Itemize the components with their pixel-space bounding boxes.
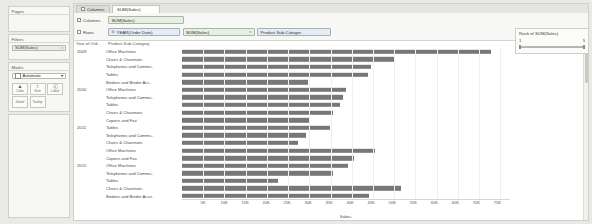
rows-pill-year-order-date[interactable]: ⊞ YEAR(Order Date) (108, 28, 180, 36)
row-subcategory-label: Tables (106, 72, 182, 77)
bar[interactable] (182, 171, 333, 175)
bar-cell (182, 170, 510, 178)
rank-filter-title: Rank of SUM(Sales) (519, 31, 585, 36)
tab-sum-sales[interactable]: SUM(Sales) (112, 5, 160, 13)
viz-canvas: Year of Ord.. Product Sub-Category 2009O… (74, 41, 588, 220)
bar-cell (182, 147, 510, 155)
tooltip-shelf[interactable]: Tooltip (30, 96, 46, 108)
row-subcategory-label: Binders and Binder Acc.. (106, 80, 182, 85)
rows-shelf-label: Rows (83, 30, 94, 35)
rows-shelf[interactable]: Rows ⊞ YEAR(Order Date) SUM(Sales) ▾ Pro… (74, 27, 588, 38)
table-row[interactable]: Binders and Binder Acc.. (76, 78, 510, 86)
color-shelf[interactable]: ▲ Color (12, 83, 28, 95)
row-subcategory-label: Binders and Binder Acce.. (106, 194, 182, 199)
label-shelf[interactable]: Ⓛ Label (47, 83, 63, 95)
table-row[interactable]: Chairs & Chairmats (76, 185, 510, 193)
bar[interactable] (182, 50, 491, 54)
table-row[interactable]: Chairs & Chairmats (76, 109, 510, 117)
columns-pill-sum-sales[interactable]: SUM(Sales) (108, 16, 184, 24)
row-year-label: 2012 (76, 163, 106, 168)
bar-cell (182, 101, 510, 109)
table-row[interactable]: Copiers and Fax (76, 154, 510, 162)
row-subcategory-label: Office Machines (106, 49, 182, 54)
table-row[interactable]: 2012Office Machines (76, 162, 510, 170)
gridline (394, 48, 395, 200)
x-tick-label: 65K (452, 200, 459, 205)
bar-mark-icon (15, 73, 21, 79)
filter-pill-sum-sales[interactable]: SUM(Sales) ▾ (12, 45, 66, 52)
gridline (479, 48, 480, 200)
bar[interactable] (182, 179, 278, 183)
table-row[interactable]: 2010Office Machines (76, 86, 510, 94)
bar[interactable] (182, 156, 354, 160)
gridline (500, 48, 501, 200)
row-subcategory-label: Telephones and Commu.. (106, 171, 182, 176)
x-tick-label: 25K (283, 200, 290, 205)
table-row[interactable]: 2009Office Machines (76, 48, 510, 56)
x-tick-label: 75K (494, 200, 501, 205)
bar[interactable] (182, 141, 298, 145)
gridline (352, 48, 353, 200)
chevron-down-icon[interactable]: ▾ (249, 30, 251, 34)
table-row[interactable]: Chairs & Chairmats (76, 56, 510, 64)
slider-knob-min[interactable] (519, 45, 521, 50)
expand-icon[interactable]: ⊞ (112, 30, 115, 34)
marks-card: Marks Automatic ▾ ▲ Color ↕ Size (8, 62, 70, 112)
bar[interactable] (182, 133, 306, 137)
row-subcategory-label: Tables (106, 125, 182, 130)
bar[interactable] (182, 148, 375, 152)
bar[interactable] (182, 126, 330, 130)
table-row[interactable]: Telephones and Commu.. (76, 94, 510, 102)
shelf-bar: Columns SUM(Sales) Rows ⊞ YEAR(Order Dat… (74, 13, 588, 41)
x-tick-label: 20K (262, 200, 269, 205)
table-row[interactable]: Tables (76, 101, 510, 109)
row-year-label: 2010 (76, 87, 106, 92)
row-subcategory-label: Chairs & Chairmats (106, 110, 182, 115)
size-shelf[interactable]: ↕ Size (30, 83, 46, 95)
table-row[interactable]: Telephones and Commu.. (76, 63, 510, 71)
row-subcategory-label: Chairs & Chairmats (106, 140, 182, 145)
bar[interactable] (182, 194, 369, 198)
gridline (437, 48, 438, 200)
table-row[interactable]: Chairs & Chairmats (76, 139, 510, 147)
bar-cell (182, 154, 510, 162)
chevron-down-icon[interactable]: ▾ (61, 46, 63, 50)
row-subcategory-label: Tables (106, 178, 182, 183)
table-row[interactable]: Tables (76, 71, 510, 79)
row-subcategory-label: Telephones and Commu.. (106, 133, 182, 138)
table-row[interactable]: Telephones and Commu.. (76, 132, 510, 140)
x-axis-title-text: Sales (340, 214, 350, 219)
tab-columns[interactable]: Columns (76, 5, 110, 13)
detail-shelf[interactable]: Detail (12, 96, 28, 108)
bar[interactable] (182, 95, 343, 99)
bar[interactable] (182, 88, 346, 92)
rows-pill-sum-sales[interactable]: SUM(Sales) ▾ (183, 28, 255, 36)
bar[interactable] (182, 186, 401, 190)
table-row[interactable]: Tables (76, 177, 510, 185)
tab-columns-label: Columns (87, 7, 104, 12)
bar[interactable] (182, 164, 348, 168)
rows-pill-sum-sales-label: SUM(Sales) (186, 30, 209, 35)
sort-desc-icon[interactable]: ↓ (350, 215, 352, 219)
bar-cell (182, 132, 510, 140)
table-row[interactable]: Copiers and Fax (76, 116, 510, 124)
bar[interactable] (182, 72, 368, 76)
rank-range-slider[interactable] (519, 44, 585, 49)
rank-filter-min: 1 (519, 38, 521, 43)
bar[interactable] (182, 103, 340, 107)
mark-type-select[interactable]: Automatic ▾ (12, 73, 66, 80)
rows-pill-product-sub-category[interactable]: Product Sub-Categor.. (257, 28, 331, 36)
slider-knob-max[interactable] (583, 45, 585, 50)
bar-cell (182, 124, 510, 132)
chevron-down-icon[interactable]: ▾ (61, 73, 63, 78)
table-row[interactable]: 2011Tables (76, 124, 510, 132)
table-row[interactable]: Office Machines (76, 147, 510, 155)
columns-shelf[interactable]: Columns SUM(Sales) (74, 15, 588, 26)
marks-detail-card (8, 114, 70, 218)
bar[interactable] (182, 110, 333, 114)
pages-divider (9, 14, 69, 15)
table-row[interactable]: Telephones and Commu.. (76, 170, 510, 178)
vertical-scrollbar[interactable] (583, 41, 588, 220)
filter-pill-label: SUM(Sales) (15, 45, 38, 50)
bar[interactable] (182, 65, 371, 69)
